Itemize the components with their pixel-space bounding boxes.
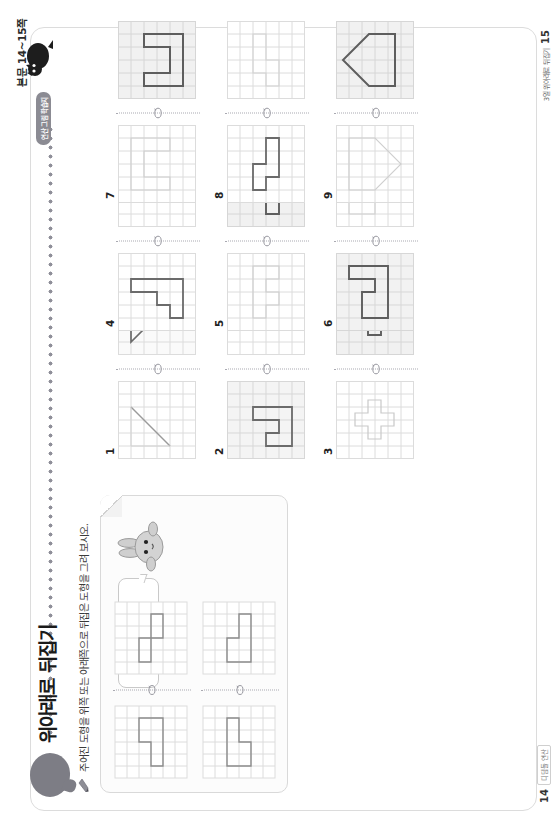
example-grid-given-a (203, 706, 275, 778)
example-panel: 위쪽으로 뒤집으나 아래쪽으로 뒤집으나 모양은 같아! (100, 495, 288, 793)
question-number-6: 6 (322, 320, 334, 327)
example-grid-given-b (115, 706, 187, 778)
footer-left-page: 14 (539, 789, 550, 803)
pencil-icon (78, 778, 89, 793)
grid-given-4 (118, 253, 196, 331)
instruction-row: 주어진 도형을 위쪽 또는 아래쪽으로 뒤집은 도형을 그려 보시오. (76, 523, 91, 793)
flip-axis-3 (334, 363, 418, 375)
grid-given-7 (118, 125, 196, 203)
question-number-4: 4 (104, 320, 116, 327)
footer-right: 3일 위아래로 뒤집기 15 (540, 30, 551, 101)
flip-axis-4 (116, 235, 200, 247)
day-number: 3 (0, 789, 40, 833)
page-title: 위아래로 뒤집기 (33, 625, 60, 743)
folded-corner (100, 495, 122, 517)
question-number-8: 8 (213, 192, 225, 199)
grid-answer-9 (336, 21, 414, 99)
grid-given-1 (118, 381, 196, 459)
rabbit-character-icon (117, 520, 171, 576)
grid-given-9 (336, 125, 414, 203)
grid-given-5 (227, 253, 305, 331)
example-flip-axis-a (201, 684, 279, 696)
page-edge (0, 0, 6, 833)
footer-right-page: 15 (540, 30, 551, 44)
question-number-5: 5 (213, 320, 225, 327)
grid-given-8 (227, 125, 305, 203)
grid-given-6 (336, 253, 414, 331)
flip-axis-2 (225, 363, 309, 375)
flip-axis-9 (334, 107, 418, 119)
page-stage: 본문 14~15쪽 3 일 위아래로 뒤집기 주어진 도형을 위쪽 또는 아래쪽… (0, 0, 559, 833)
question-number-1: 1 (104, 448, 116, 455)
grid-answer-8 (227, 21, 305, 99)
concept-badge: 연산 그림 학습지 (36, 92, 51, 145)
workbook-page: 본문 14~15쪽 3 일 위아래로 뒤집기 주어진 도형을 위쪽 또는 아래쪽… (0, 0, 559, 833)
character-icon (22, 38, 56, 80)
footer-left-tag: 디딤돌 연산 (537, 745, 551, 785)
question-number-3: 3 (322, 448, 334, 455)
flip-axis-1 (116, 363, 200, 375)
question-number-9: 9 (322, 192, 334, 199)
grid-given-3 (336, 381, 414, 459)
grid-given-2 (227, 381, 305, 459)
flip-axis-7 (116, 107, 200, 119)
example-grid-answer-a (203, 602, 275, 674)
flip-axis-6 (334, 235, 418, 247)
question-number-2: 2 (213, 448, 225, 455)
instruction-text: 주어진 도형을 위쪽 또는 아래쪽으로 뒤집은 도형을 그려 보시오. (76, 523, 91, 772)
footer-left: 14 디딤돌 연산 (537, 745, 551, 803)
grid-answer-7 (118, 21, 196, 99)
flip-axis-8 (225, 107, 309, 119)
day-unit: 일 (9, 5, 20, 12)
footer-right-text: 3일 위아래로 뒤집기 (541, 48, 551, 101)
question-number-7: 7 (104, 192, 116, 199)
example-grid-answer-b (115, 602, 187, 674)
flip-axis-5 (225, 235, 309, 247)
example-flip-axis-b (113, 684, 191, 696)
